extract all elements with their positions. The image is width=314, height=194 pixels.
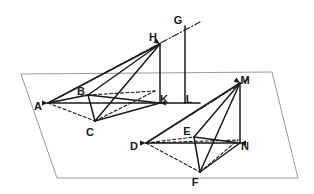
vertex-label-b: B: [77, 85, 85, 97]
vertex-label-c: C: [86, 126, 94, 138]
vertex-label-m: M: [240, 74, 249, 86]
vertex-label-l: L: [186, 93, 193, 105]
edge-E-M: [194, 83, 240, 137]
solid-edges-group: [48, 26, 240, 172]
edge-B-Kd-dashed: [88, 91, 155, 95]
diagram-canvas: ABCHKGLDEFMN: [0, 0, 314, 194]
edge-C-K: [95, 103, 160, 121]
vertex-label-f: F: [192, 176, 199, 188]
vertex-label-h: H: [149, 31, 157, 43]
vertex-label-g: G: [174, 14, 183, 26]
edge-B-K: [88, 95, 160, 103]
vertex-label-e: E: [183, 125, 190, 137]
vertex-label-d: D: [130, 140, 138, 152]
geometry-figure: ABCHKGLDEFMN: [0, 0, 314, 194]
edge-D-F-dashed: [146, 143, 200, 172]
vertex-label-k: K: [160, 93, 168, 105]
vertex-label-n: N: [241, 140, 249, 152]
arrowhead-at-D: [140, 140, 146, 145]
arrowhead-at-A: [42, 100, 48, 105]
vertex-label-a: A: [34, 100, 42, 112]
construction-rays-group: [48, 22, 248, 143]
edge-C-Kd-dashed: [95, 91, 155, 121]
edge-B-C: [88, 95, 95, 121]
edge-A-C-dashed: [48, 103, 95, 121]
